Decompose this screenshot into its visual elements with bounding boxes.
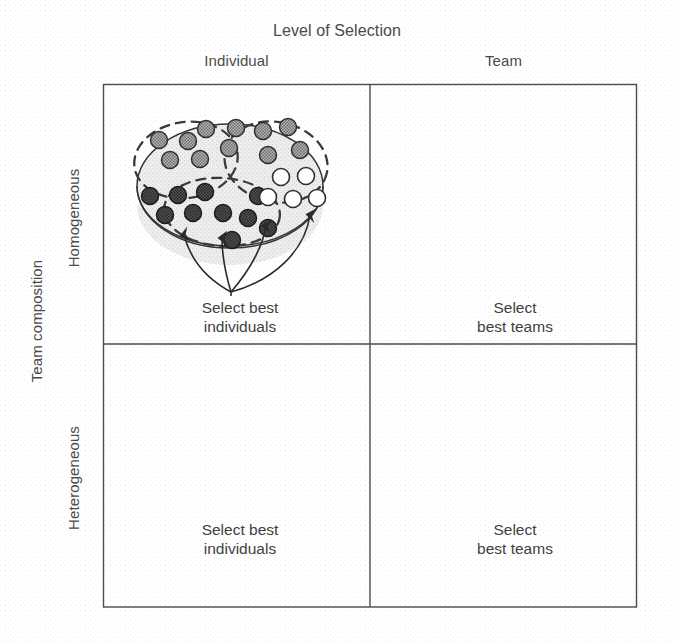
figure-canvas: Level of Selection Individual Team Team … [0, 0, 674, 642]
column-header-individual: Individual [103, 52, 370, 69]
row-header-heterogeneous: Heterogeneous [65, 388, 82, 568]
caption-bottom-right: Select best teams [435, 520, 595, 558]
figure-top-title: Level of Selection [0, 22, 674, 40]
caption-bottom-left-line2: individuals [150, 539, 330, 558]
caption-bottom-left-line1: Select best [150, 520, 330, 539]
caption-top-left: Select best individuals [150, 298, 330, 336]
caption-bottom-right-line2: best teams [435, 539, 595, 558]
column-header-team: Team [370, 52, 637, 69]
y-axis-title: Team composition [28, 221, 45, 421]
caption-top-right-line1: Select [435, 298, 595, 317]
row-header-homogeneous: Homogeneous [65, 138, 82, 298]
caption-top-left-line1: Select best [150, 298, 330, 317]
caption-top-left-line2: individuals [150, 317, 330, 336]
caption-top-right-line2: best teams [435, 317, 595, 336]
caption-bottom-left: Select best individuals [150, 520, 330, 558]
caption-top-right: Select best teams [435, 298, 595, 336]
caption-bottom-right-line1: Select [435, 520, 595, 539]
